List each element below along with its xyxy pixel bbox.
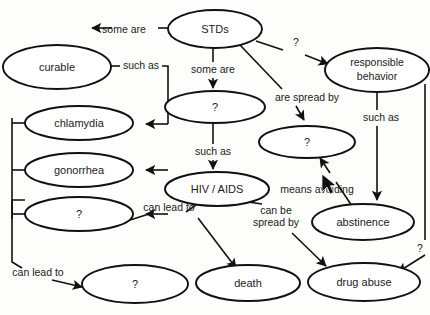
concept-map-canvas: STDs curable responsible behavior ? chla…	[0, 0, 430, 315]
node-question-center-top[interactable]: ?	[165, 91, 265, 123]
node-chlamydia[interactable]: chlamydia	[25, 106, 133, 140]
concept-map-diagram: STDs curable responsible behavior ? chla…	[0, 0, 430, 315]
node-label-responsible-line1: responsible	[350, 56, 404, 68]
edge-label-some-are-1: some are	[102, 23, 146, 35]
node-death[interactable]: death	[196, 265, 300, 301]
node-stds[interactable]: STDs	[168, 10, 262, 48]
node-drug-abuse[interactable]: drug abuse	[308, 263, 420, 301]
node-label-question-spread: ?	[304, 136, 310, 148]
node-responsible-behavior[interactable]: responsible behavior	[325, 48, 429, 92]
edge-label-question-right-edge: ?	[417, 242, 423, 254]
node-label-abstinence: abstinence	[336, 216, 389, 228]
edge-stds-to-qspread-b	[296, 106, 304, 120]
edge-stds-to-responsible-b	[305, 55, 328, 64]
edge-label-some-are-2: some are	[191, 63, 235, 75]
node-label-chlamydia: chlamydia	[54, 117, 104, 129]
node-label-hiv-aids: HIV / AIDS	[191, 183, 244, 195]
edge-stds-to-responsible-a	[256, 41, 283, 50]
node-label-question-bottom-left: ?	[132, 278, 138, 290]
node-question-bottom-left[interactable]: ?	[82, 265, 188, 303]
edge-stds-to-qspread-a	[240, 45, 282, 89]
edge-such-as-trunk	[162, 66, 168, 124]
edge-label-can-be-spread-by-line2: spread by	[253, 216, 300, 228]
node-label-gonorrhea: gonorrhea	[54, 164, 105, 176]
edge-label-can-lead-to-2: can lead to	[12, 266, 64, 278]
node-abstinence[interactable]: abstinence	[312, 204, 414, 240]
node-label-curable: curable	[39, 61, 75, 73]
edge-label-such-as-3: such as	[195, 145, 231, 157]
node-label-responsible-line2: behavior	[357, 70, 398, 82]
edge-to-q-bottom-left	[52, 280, 82, 287]
edge-hiv-to-death-b	[198, 218, 236, 268]
edge-hiv-to-drug-b	[292, 233, 326, 266]
node-label-question-center-top: ?	[212, 101, 218, 113]
node-label-drug-abuse: drug abuse	[336, 276, 391, 288]
node-question-spread[interactable]: ?	[259, 126, 355, 158]
edge-qleft-wrap	[12, 200, 25, 268]
edge-abstinence-to-qspread-b	[320, 158, 330, 173]
edge-label-can-lead-to-1: can lead to	[143, 201, 195, 213]
node-label-death: death	[234, 277, 262, 289]
edge-label-question-stds-responsible: ?	[293, 36, 299, 48]
edge-label-means-avoiding: means avoiding	[280, 183, 354, 195]
node-label-question-left-third: ?	[76, 208, 82, 220]
edge-label-are-spread-by: are spread by	[275, 91, 340, 103]
edge-label-can-be-spread-by-line1: can be	[260, 204, 292, 216]
node-curable[interactable]: curable	[3, 45, 111, 89]
node-question-left-third[interactable]: ?	[25, 197, 133, 231]
edge-label-such-as-2: such as	[363, 111, 399, 123]
edge-label-such-as-1: such as	[123, 59, 159, 71]
node-label-stds: STDs	[201, 23, 229, 35]
node-gonorrhea[interactable]: gonorrhea	[25, 153, 133, 187]
